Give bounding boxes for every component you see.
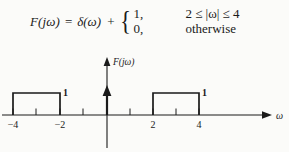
case-value: 1,	[133, 6, 147, 21]
y-axis-arrowhead	[104, 57, 111, 66]
impulse-arrowhead	[103, 85, 112, 96]
left-pulse-amplitude-label: 1	[63, 87, 68, 98]
spectrum-plot: F(jω) ω 1 1 −4 −2 2 4	[0, 40, 289, 152]
y-axis-label: F(jω)	[112, 57, 134, 68]
case-row: 1, 2 ≤ |ω| ≤ 4	[133, 6, 239, 21]
x-axis	[2, 111, 272, 118]
case-row: 0, otherwise	[133, 21, 239, 36]
cases-list: 1, 2 ≤ |ω| ≤ 4 0, otherwise	[133, 6, 239, 36]
x-axis-arrowhead	[262, 111, 272, 118]
case-brace: {	[120, 10, 131, 32]
x-tick-label--2: −2	[55, 119, 66, 130]
impulse-arrow	[103, 85, 112, 115]
x-tick-label-2: 2	[151, 119, 156, 130]
equation-block: F(jω) = δ(ω) + { 1, 2 ≤ |ω| ≤ 4 0, other…	[30, 6, 239, 36]
x-axis-label: ω	[276, 110, 283, 121]
equation-lhs: F(jω)	[30, 15, 60, 28]
x-tick-label-4: 4	[197, 119, 202, 130]
equation-plus-sign: +	[107, 15, 114, 28]
equation-delta-term: δ(ω)	[77, 15, 101, 28]
case-condition: otherwise	[185, 21, 236, 36]
figure-root: F(jω) = δ(ω) + { 1, 2 ≤ |ω| ≤ 4 0, other…	[0, 0, 289, 152]
equation-equals-sign: =	[65, 15, 72, 28]
x-tick-label--4: −4	[8, 119, 19, 130]
case-value: 0,	[133, 21, 147, 36]
right-pulse-amplitude-label: 1	[202, 87, 207, 98]
case-condition: 2 ≤ |ω| ≤ 4	[185, 6, 239, 21]
